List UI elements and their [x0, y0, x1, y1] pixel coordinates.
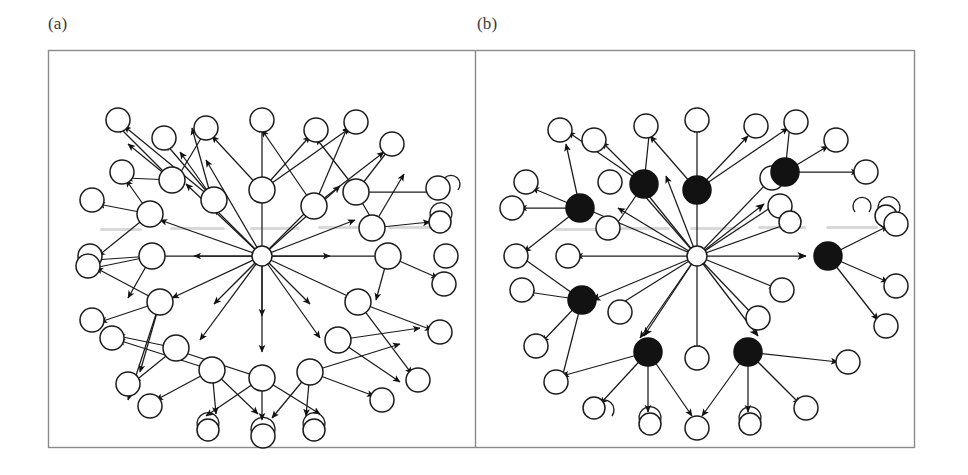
branch-a-se: [358, 302, 432, 374]
figure-canvas: [0, 0, 968, 475]
nodes-a: [76, 108, 458, 448]
root-node-b: [687, 246, 707, 266]
panel-a-label: (a): [48, 14, 67, 34]
branch-b-sl: [562, 352, 692, 416]
figure-root: (a) (b): [0, 0, 968, 475]
inner-nodes-a: [137, 167, 401, 391]
root-node-a: [252, 246, 272, 266]
branch-b-sw: [520, 256, 582, 378]
nodes-b: [500, 108, 908, 440]
branch-a-s: [176, 350, 320, 420]
panel-a: [76, 108, 460, 448]
self-loops-a: [197, 175, 460, 436]
branch-b-e: [828, 226, 888, 320]
self-loops-b: [594, 197, 900, 424]
panel-b-label: (b): [477, 14, 497, 34]
panel-b: [500, 108, 908, 440]
